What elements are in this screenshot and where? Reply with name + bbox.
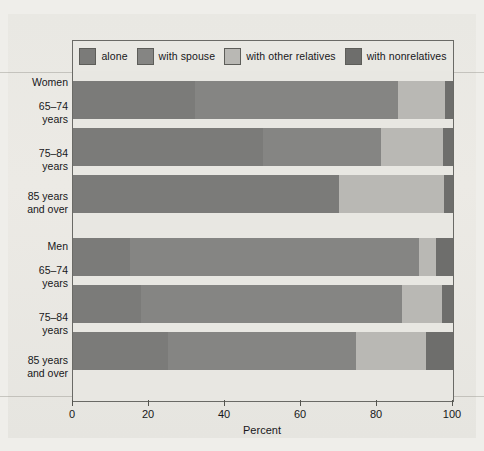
legend-label: with nonrelatives [367, 50, 447, 62]
x-axis-tick-label: 100 [443, 408, 461, 420]
bar-segment [444, 175, 454, 213]
bar-segment [73, 238, 130, 276]
bar-segment [426, 332, 453, 370]
chart-page: Women65–74 years75–84 years85 years and … [0, 0, 484, 451]
x-axis-tick [224, 400, 225, 406]
bar-segment [419, 238, 436, 276]
bar-row [73, 238, 453, 276]
bar-segment [73, 285, 141, 323]
bar-segment [442, 285, 453, 323]
bar-segment [443, 128, 453, 166]
x-axis-tick-label: 20 [142, 408, 154, 420]
bar-segment [141, 285, 401, 323]
bar-segment [73, 175, 339, 213]
legend-swatch-icon [137, 48, 154, 65]
bar-row [73, 285, 453, 323]
x-axis-tick-label: 60 [294, 408, 306, 420]
bar-segment [339, 175, 444, 213]
chart-legend: alonewith spousewith other relativeswith… [73, 41, 453, 71]
legend-swatch-icon [224, 48, 241, 65]
bar-segment [263, 128, 381, 166]
x-axis-tick-label: 80 [370, 408, 382, 420]
bar-row [73, 81, 453, 119]
bar-segment [73, 81, 195, 119]
bar-segment [130, 238, 419, 276]
legend-swatch-icon [345, 48, 362, 65]
bar-segment [381, 128, 444, 166]
x-axis-tick [452, 400, 453, 406]
legend-label: alone [101, 50, 127, 62]
legend-item: with spouse [137, 48, 216, 65]
bar-segment [195, 81, 398, 119]
x-axis-tick-label: 0 [69, 408, 75, 420]
x-axis-tick [376, 400, 377, 406]
legend-item: with nonrelatives [345, 48, 447, 65]
bar-row [73, 332, 453, 370]
bars-container [73, 71, 453, 401]
x-axis-tick [72, 400, 73, 406]
bar-segment [445, 81, 453, 119]
x-axis-title: Percent [72, 424, 452, 436]
x-axis-tick [148, 400, 149, 406]
legend-label: with spouse [159, 50, 216, 62]
x-axis: 020406080100 [72, 400, 452, 401]
bar-row [73, 175, 453, 213]
bar-segment [356, 332, 426, 370]
x-axis-tick-label: 40 [218, 408, 230, 420]
bar-segment [73, 128, 263, 166]
bar-row [73, 128, 453, 166]
bar-segment [168, 332, 356, 370]
legend-swatch-icon [79, 48, 96, 65]
legend-item: with other relatives [224, 48, 336, 65]
x-axis-tick [300, 400, 301, 406]
legend-label: with other relatives [246, 50, 336, 62]
bar-segment [436, 238, 453, 276]
bar-segment [73, 332, 168, 370]
bar-segment [402, 285, 442, 323]
plot-area: alonewith spousewith other relativeswith… [72, 40, 454, 402]
bar-segment [398, 81, 446, 119]
legend-item: alone [79, 48, 127, 65]
